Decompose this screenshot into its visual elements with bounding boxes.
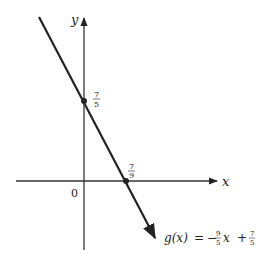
x-intercept-denominator: 9 (129, 171, 134, 180)
x-axis-label: x (222, 174, 230, 189)
intercept-numerator: 7 (250, 230, 254, 238)
function-graph: y x 0 7 5 7 9 g(x) = − 9 5 x + 7 5 (0, 0, 270, 266)
y-axis-label: y (70, 12, 79, 27)
equation-label: g(x) = − 9 5 x + 7 5 (164, 230, 255, 247)
origin-label: 0 (71, 187, 78, 200)
equation-variable: x (223, 231, 230, 245)
y-intercept-point (81, 98, 87, 104)
x-intercept-numerator: 7 (129, 162, 134, 171)
y-intercept-label: 7 5 (93, 90, 100, 109)
slope-numerator: 9 (216, 230, 220, 238)
slope-denominator: 5 (216, 239, 220, 247)
function-name: g(x) (164, 231, 188, 245)
function-line (39, 17, 155, 238)
y-intercept-denominator: 5 (94, 100, 99, 109)
equals-sign: = (194, 231, 204, 245)
plus-sign: + (237, 231, 247, 245)
y-intercept-numerator: 7 (94, 90, 99, 99)
x-intercept-label: 7 9 (128, 162, 135, 180)
intercept-denominator: 5 (250, 239, 254, 247)
